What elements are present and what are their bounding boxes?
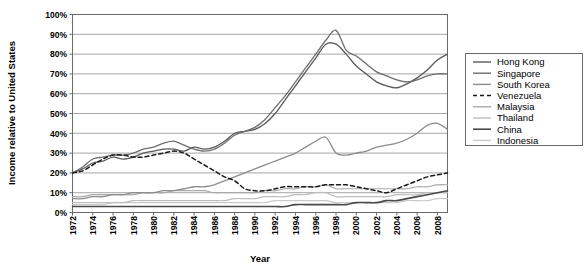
income-relative-line-chart: Income relative to United States 0%10%20… xyxy=(0,0,588,269)
gridlines xyxy=(70,15,448,213)
x-tick-label: 1988 xyxy=(230,216,240,235)
y-tick-label: 100% xyxy=(45,10,67,20)
x-tick-label: 2004 xyxy=(392,216,402,235)
x-tick-label: 1974 xyxy=(88,216,98,235)
x-axis-title-text: Year xyxy=(250,253,270,264)
y-tick-label: 70% xyxy=(50,69,67,79)
y-tick-label: 40% xyxy=(50,129,67,139)
legend-label: Indonesia xyxy=(497,135,539,146)
x-axis-tick-labels: 1972197419761978198019821984198619881990… xyxy=(68,213,443,235)
y-tick-label: 0% xyxy=(55,208,68,218)
x-tick-label: 1998 xyxy=(331,216,341,235)
y-tick-label: 50% xyxy=(50,109,67,119)
x-tick-label: 1978 xyxy=(129,216,139,235)
legend-label: Hong Kong xyxy=(497,56,545,67)
x-tick-label: 1980 xyxy=(149,216,159,235)
legend-label: Thailand xyxy=(497,112,533,123)
x-tick-label: 1996 xyxy=(311,216,321,235)
legend-label: South Korea xyxy=(497,79,551,90)
x-tick-label: 1972 xyxy=(68,216,78,235)
series-line-singapore xyxy=(73,30,448,173)
legend: Hong KongSingaporeSouth KoreaVenezuelaMa… xyxy=(466,54,583,146)
y-tick-label: 30% xyxy=(50,148,67,158)
legend-label: China xyxy=(497,124,523,135)
y-tick-label: 80% xyxy=(50,49,67,59)
x-tick-label: 2002 xyxy=(372,216,382,235)
x-tick-label: 1984 xyxy=(189,216,199,235)
x-tick-label: 2006 xyxy=(412,216,422,235)
y-tick-label: 10% xyxy=(50,188,67,198)
legend-label: Malaysia xyxy=(497,101,535,112)
x-tick-label: 1982 xyxy=(169,216,179,235)
legend-label: Venezuela xyxy=(497,90,542,101)
x-tick-label: 1994 xyxy=(291,216,301,235)
series-group xyxy=(73,30,448,207)
x-tick-label: 2008 xyxy=(433,216,443,235)
y-axis-title-text: Income relative to United States xyxy=(6,41,17,185)
legend-label: Singapore xyxy=(497,68,540,79)
y-tick-label: 60% xyxy=(50,89,67,99)
y-axis-title: Income relative to United States xyxy=(6,41,17,185)
y-tick-label: 90% xyxy=(50,30,67,40)
series-line-venezuela xyxy=(73,151,448,193)
x-tick-label: 1990 xyxy=(250,216,260,235)
x-tick-label: 2000 xyxy=(351,216,361,235)
x-tick-label: 1986 xyxy=(210,216,220,235)
x-tick-label: 1992 xyxy=(270,216,280,235)
y-tick-label: 20% xyxy=(50,168,67,178)
series-line-south-korea xyxy=(73,123,448,199)
x-tick-label: 1976 xyxy=(108,216,118,235)
chart-figure: Income relative to United States 0%10%20… xyxy=(0,0,588,269)
y-axis-tick-labels: 0%10%20%30%40%50%60%70%80%90%100% xyxy=(45,10,67,218)
